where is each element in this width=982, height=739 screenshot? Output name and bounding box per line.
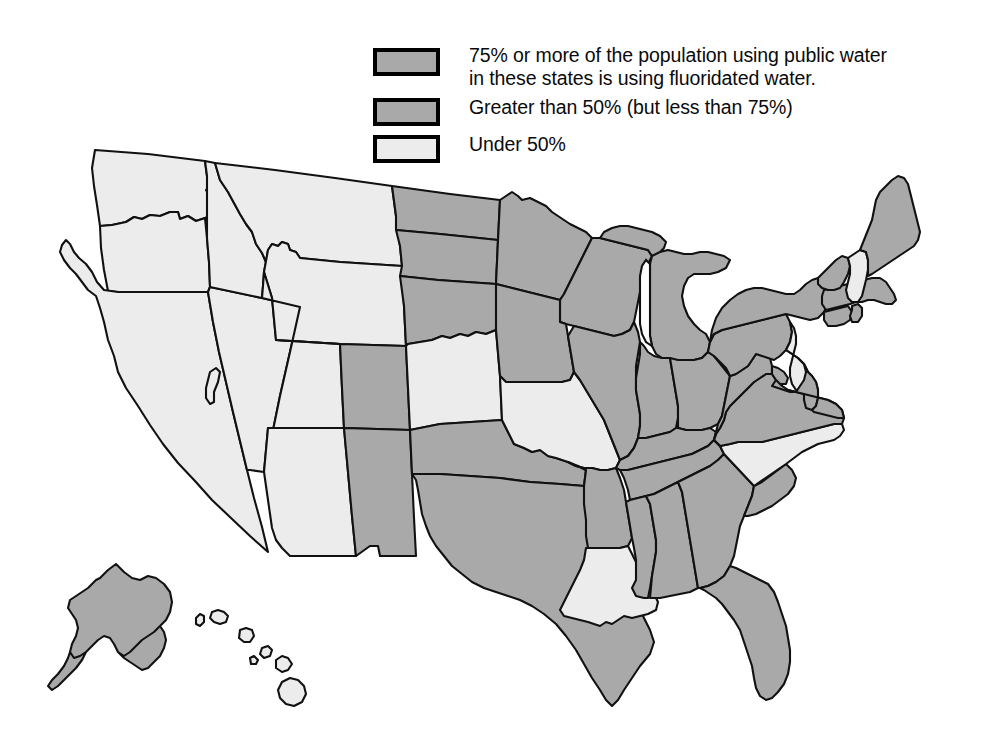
state-AZ (264, 428, 356, 556)
legend-label-low: Under 50% (469, 133, 566, 156)
map-figure: 75% or more of the population using publ… (0, 0, 982, 739)
state-RI (850, 304, 862, 322)
lake-michigan (640, 260, 652, 346)
legend-swatch-low (373, 135, 440, 163)
legend-item-low: Under 50% (373, 133, 973, 163)
state-AK (48, 564, 172, 690)
state-KS (406, 330, 502, 430)
legend-label-high: 75% or more of the population using publ… (469, 44, 887, 90)
legend-label-mid: Greater than 50% (but less than 75%) (469, 96, 793, 119)
state-FL (700, 566, 790, 700)
legend-item-mid: Greater than 50% (but less than 75%) (373, 96, 973, 126)
state-ME (860, 176, 920, 276)
legend-item-high: 75% or more of the population using publ… (373, 44, 973, 90)
state-SD (396, 230, 498, 284)
map-legend: 75% or more of the population using publ… (373, 44, 973, 167)
state-OR (100, 212, 210, 292)
state-HI (196, 610, 306, 706)
legend-swatch-high (373, 48, 440, 76)
legend-swatch-mid (373, 98, 440, 126)
state-NM (344, 428, 416, 556)
